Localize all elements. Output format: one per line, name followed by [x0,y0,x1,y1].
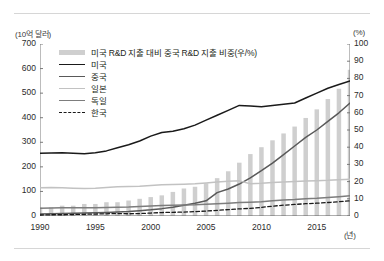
legend-item: 미국 R&D 지출 대비 중국 R&D 지출 비중(우/%) [59,46,309,58]
legend-line-swatch [59,83,85,94]
y-axis-tick-label: 0 [2,210,36,220]
y-axis-tick-label: 200 [2,161,36,171]
x-axis-tick-label: 2010 [241,222,281,232]
y-axis-tick-label: 500 [2,87,36,97]
y2-axis-tick-label: 90 [354,55,384,65]
y-axis-tick-label: 700 [2,38,36,48]
legend-item-label: 일본 [91,82,107,94]
legend-item: 미국 [59,58,309,70]
x-axis-tick-label: 1990 [20,222,60,232]
x-axis-tick-label: 2000 [131,222,171,232]
x-axis-tick-label: 1995 [75,222,115,232]
bar [248,154,252,216]
legend-item-label: 미국 R&D 지출 대비 중국 R&D 지출 비중(우/%) [91,46,257,58]
bar [315,109,319,216]
legend-item-label: 중국 [91,70,107,82]
y2-axis-tick-label: 70 [354,90,384,100]
y-axis-tick-label: 100 [2,185,36,195]
bar [326,99,330,216]
line-swatch [59,76,85,77]
legend-line-swatch [59,71,85,82]
legend-item-label: 미국 [91,58,107,70]
x-axis-tick-label: 2015 [297,222,337,232]
y2-axis-tick-label: 50 [354,124,384,134]
chart-figure: (10억 달러) (%) (년) 01002003004005006007000… [0,0,384,261]
legend-item-label: 한국 [91,106,107,118]
bar [303,118,307,216]
legend-line-swatch [59,107,85,118]
top-divider [14,13,370,14]
legend-item: 중국 [59,70,309,82]
y2-axis-tick-label: 60 [354,107,384,117]
legend-item: 일본 [59,82,309,94]
y-axis-tick-label: 300 [2,136,36,146]
y2-axis-tick-label: 20 [354,176,384,186]
chart-legend: 미국 R&D 지출 대비 중국 R&D 지출 비중(우/%)미국중국일본독일한국 [59,46,309,118]
y-axis-tick-label: 400 [2,112,36,122]
bar [270,140,274,216]
line-swatch [59,64,85,65]
y2-axis-tick-label: 80 [354,72,384,82]
line-swatch [59,112,85,113]
x-axis-unit-label: (년) [344,229,356,240]
line-swatch [59,100,85,101]
bar [259,147,263,216]
bar [237,163,241,216]
bottom-divider [14,248,370,249]
legend-item: 한국 [59,106,309,118]
y2-axis-tick-label: 30 [354,158,384,168]
y2-axis-tick-label: 100 [354,38,384,48]
legend-line-swatch [59,59,85,70]
line-swatch [59,88,85,89]
bar-swatch [59,50,85,55]
right-axis-unit-label: (%) [353,28,365,37]
legend-item-label: 독일 [91,94,107,106]
bar [292,127,296,216]
legend-item: 독일 [59,94,309,106]
bar [281,133,285,216]
y2-axis-tick-label: 10 [354,193,384,203]
x-axis-tick-label: 2005 [186,222,226,232]
legend-bar-swatch [59,47,85,58]
y2-axis-tick-label: 40 [354,141,384,151]
y-axis-tick-label: 600 [2,63,36,73]
y2-axis-tick-label: 0 [354,210,384,220]
legend-line-swatch [59,95,85,106]
